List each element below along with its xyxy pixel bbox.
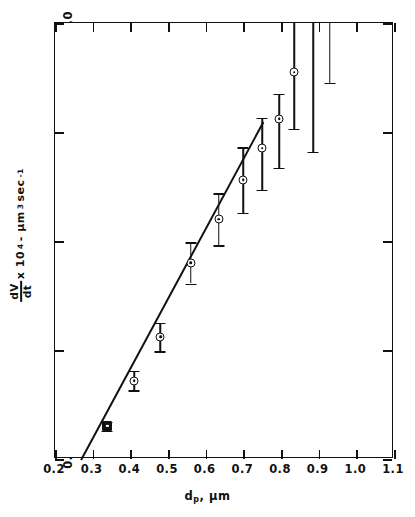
x-tick-mark-top (281, 23, 283, 32)
y-axis-title-scale: x 10 (14, 251, 27, 279)
y-axis-title-units: - μm (14, 211, 27, 241)
y-tick-mark-right (383, 459, 392, 461)
x-tick-mark-top (319, 23, 321, 32)
x-tick-mark (319, 450, 321, 459)
data-point-marker (275, 114, 284, 123)
y-axis-title-fraction: dV dt (9, 281, 33, 302)
x-tick-mark (168, 450, 170, 459)
y-tick-mark (55, 241, 64, 243)
error-bar (312, 23, 314, 152)
x-tick-mark (130, 450, 132, 459)
data-point-marker (258, 144, 267, 153)
error-bar-cap-lower (257, 190, 268, 192)
error-bar-cap-lower (324, 83, 335, 85)
y-tick-mark (55, 350, 64, 352)
error-bar (160, 323, 162, 351)
x-tick-label: 0.8 (269, 462, 291, 476)
error-bar (261, 118, 263, 190)
x-tick-mark-top (168, 23, 170, 32)
x-tick-mark (93, 450, 95, 459)
x-tick-label: 0.6 (194, 462, 216, 476)
x-tick-mark-top (356, 23, 358, 32)
error-bar (293, 23, 295, 129)
x-tick-label: 0.3 (81, 462, 103, 476)
y-axis-title-denominator: dt (22, 283, 33, 301)
error-bar-cap-lower (213, 245, 224, 247)
y-axis-title-units-time: sec (14, 180, 27, 202)
error-bar (243, 147, 245, 212)
data-point-marker (102, 421, 112, 431)
x-tick-label: 0.9 (307, 462, 329, 476)
x-tick-mark-top (93, 23, 95, 32)
data-point-marker (186, 258, 195, 267)
y-axis-title-scale-exponent: 4 (16, 243, 25, 249)
plot-area (54, 22, 393, 458)
x-tick-mark-top (394, 23, 396, 32)
y-axis-title-units-exponent: 3 (16, 204, 25, 210)
x-tick-mark-top (206, 23, 208, 32)
x-tick-label: 1.0 (345, 462, 367, 476)
x-tick-label: 0.5 (156, 462, 178, 476)
error-bar-cap-lower (308, 152, 319, 154)
error-bar-cap-lower (289, 129, 300, 131)
x-tick-mark-top (130, 23, 132, 32)
error-bar-cap-upper (185, 242, 196, 244)
x-axis-title-units: , μm (200, 489, 231, 503)
error-bar-cap-upper (155, 323, 166, 325)
error-bar-cap-lower (274, 168, 285, 170)
fit-line (80, 122, 264, 461)
error-bar-cap-upper (213, 193, 224, 195)
error-bar-cap-upper (257, 118, 268, 120)
y-axis-title-units-time-exponent: -1 (16, 168, 25, 177)
x-tick-label: 0.7 (232, 462, 254, 476)
x-tick-label: 0.4 (119, 462, 141, 476)
y-tick-mark-right (383, 132, 392, 134)
error-bar (329, 23, 331, 83)
x-tick-mark-top (243, 23, 245, 32)
error-bar-cap-lower (155, 351, 166, 353)
data-point-marker (290, 68, 299, 77)
error-bar (190, 242, 192, 283)
error-bar (218, 193, 220, 245)
y-axis-title-numerator: dV (9, 281, 20, 302)
y-tick-mark (55, 459, 64, 461)
figure-canvas: dV dt x 104 - μm3 sec-1 0.01.02.03.04.0 … (0, 0, 415, 517)
x-tick-mark (243, 450, 245, 459)
error-bar-cap-upper (274, 94, 285, 96)
error-bar (107, 422, 109, 431)
data-point-marker (214, 215, 223, 224)
x-tick-mark (55, 450, 57, 459)
error-bar (278, 94, 280, 168)
error-bar-cap-lower (185, 284, 196, 286)
error-bar-cap-upper (129, 371, 140, 373)
x-tick-mark-top (55, 23, 57, 32)
data-point-marker (239, 175, 248, 184)
error-bar (133, 371, 135, 391)
error-bar-cap-lower (238, 213, 249, 215)
y-axis-title-container: dV dt x 104 - μm3 sec-1 (4, 0, 38, 470)
y-axis-title: dV dt x 104 - μm3 sec-1 (9, 168, 33, 302)
error-bar-cap-upper (238, 147, 249, 149)
y-tick-mark-right (383, 241, 392, 243)
x-tick-mark (206, 450, 208, 459)
y-tick-mark-right (383, 350, 392, 352)
y-tick-mark (55, 132, 64, 134)
error-bar-cap-upper (102, 422, 113, 424)
x-axis-title: dp, μm (0, 489, 415, 504)
x-tick-mark (281, 450, 283, 459)
x-tick-label: 0.2 (43, 462, 65, 476)
data-series-layer (55, 23, 392, 457)
error-bar-cap-lower (129, 390, 140, 392)
data-point-marker (130, 376, 139, 385)
data-point-marker (156, 332, 165, 341)
x-tick-label: 1.1 (382, 462, 404, 476)
x-tick-mark (394, 450, 396, 459)
error-bar-cap-lower (102, 431, 113, 433)
x-tick-mark (356, 450, 358, 459)
y-tick-mark-right (383, 23, 392, 25)
